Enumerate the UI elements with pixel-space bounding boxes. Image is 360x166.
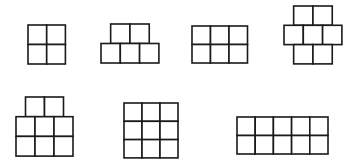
square-cell [303,25,322,44]
square-cell [313,45,332,64]
square-cell [142,103,160,121]
square-cell [310,117,328,136]
square-cell [255,136,273,155]
square-cell [229,45,248,64]
square-cell [273,117,291,136]
square-cell [160,140,178,158]
square-cell [28,25,47,45]
square-cell [35,117,54,137]
square-cell [47,45,66,65]
square-cell [292,136,310,155]
square-cell [124,140,142,158]
figure-5 [16,97,73,156]
square-cell [313,6,332,25]
square-cell [47,25,66,45]
square-cell [35,136,54,156]
square-cell [294,45,313,64]
square-cell [284,25,303,44]
square-cell [294,6,313,25]
square-cell [124,103,142,121]
square-cell [16,117,35,137]
square-cell [160,121,178,139]
figure-3 [192,26,248,63]
square-cell [16,136,35,156]
square-cell [124,121,142,139]
square-cell [229,26,248,45]
square-cell [237,117,255,136]
figure-4 [284,6,342,64]
square-cell [111,24,130,44]
square-cell [140,44,159,64]
square-cell [28,45,47,65]
square-cell [192,26,211,45]
figure-2 [101,24,159,63]
square-cell [323,25,342,44]
square-cell [120,44,139,64]
square-cell [273,136,291,155]
square-cell [45,97,64,117]
square-cell [130,24,149,44]
square-cell [211,45,230,64]
figure-7 [237,117,328,154]
square-cell [142,140,160,158]
square-cell [101,44,120,64]
square-cell [310,136,328,155]
figure-1 [28,25,65,64]
square-cell [26,97,45,117]
figure-6 [124,103,178,158]
square-cell [54,136,73,156]
square-cell [192,45,211,64]
square-cell [142,121,160,139]
square-cell [160,103,178,121]
figures-canvas [0,0,360,166]
square-cell [211,26,230,45]
square-cell [292,117,310,136]
square-cell [54,117,73,137]
square-cell [255,117,273,136]
square-cell [237,136,255,155]
